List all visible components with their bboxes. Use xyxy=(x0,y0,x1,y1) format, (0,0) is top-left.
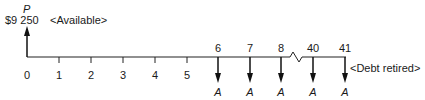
present-value-arrow-icon xyxy=(24,26,30,57)
period-label-40: 40 xyxy=(307,42,319,54)
period-label-41: 41 xyxy=(339,42,351,54)
tick-label-1: 1 xyxy=(56,69,62,81)
tick-label-5: 5 xyxy=(184,69,190,81)
payment-arrow-icon xyxy=(310,57,316,83)
payment-symbol: A xyxy=(309,86,316,98)
axis-ticks xyxy=(59,57,187,63)
tick-label-2: 2 xyxy=(88,69,94,81)
payment-arrows xyxy=(215,57,348,83)
tick-label-3: 3 xyxy=(120,69,126,81)
payment-arrow-icon xyxy=(215,57,221,83)
payment-arrow-icon xyxy=(247,57,253,83)
present-value-amount: $9 250 xyxy=(5,14,39,26)
payment-symbol: A xyxy=(246,86,253,98)
payment-symbol: A xyxy=(214,86,221,98)
axis-break-icon xyxy=(290,52,302,62)
present-value-note: <Available> xyxy=(50,14,107,26)
payment-arrow-icon xyxy=(342,57,348,83)
debt-retired-note: <Debt retired> xyxy=(350,62,420,74)
period-label-8: 8 xyxy=(278,42,284,54)
tick-label-0: 0 xyxy=(24,69,30,81)
payment-symbol: A xyxy=(341,86,348,98)
period-label-7: 7 xyxy=(247,42,253,54)
tick-label-4: 4 xyxy=(152,69,158,81)
period-label-6: 6 xyxy=(215,42,221,54)
payment-symbol: A xyxy=(277,86,284,98)
payment-arrow-icon xyxy=(278,57,284,83)
